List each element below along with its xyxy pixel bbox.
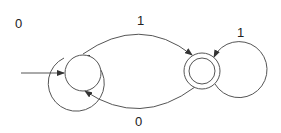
state-q0 [65,55,101,91]
state-q1-inner [189,58,215,84]
label-q1-q0: 0 [135,114,142,129]
automaton-diagram: 0 1 0 1 [0,0,281,133]
transition-q1-q0 [85,87,195,109]
label-q0-q1: 1 [137,13,144,28]
self-loop-q1 [214,42,267,98]
transition-q0-q1 [83,34,192,55]
label-loop-q1: 1 [237,25,244,40]
label-loop-q0: 0 [15,16,22,31]
